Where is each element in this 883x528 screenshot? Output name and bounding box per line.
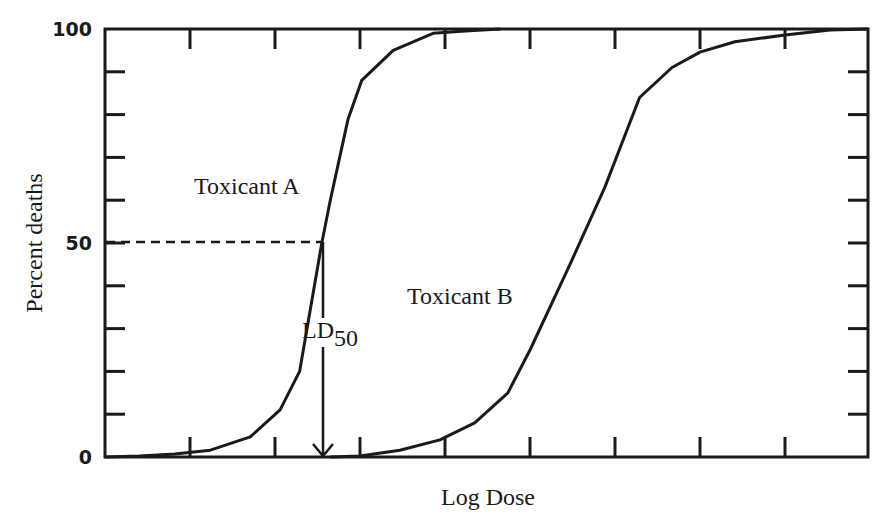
x-axis-title: Log Dose: [441, 484, 535, 510]
dose-response-chart: 100 50 0 Percent deaths Log Dose Toxican…: [0, 0, 883, 528]
toxicant-b-curve: [330, 29, 868, 457]
ld-text: LD: [302, 317, 334, 343]
ld50-label: LD50: [302, 317, 358, 351]
y-axis-title: Percent deaths: [21, 173, 47, 312]
toxicant-b-label: Toxicant B: [407, 283, 513, 309]
ld-subscript: 50: [334, 325, 358, 351]
y-tick-label-50: 50: [66, 232, 92, 254]
toxicant-a-label: Toxicant A: [194, 173, 300, 199]
y-tick-label-0: 0: [79, 446, 92, 468]
y-tick-label-100: 100: [52, 18, 92, 40]
